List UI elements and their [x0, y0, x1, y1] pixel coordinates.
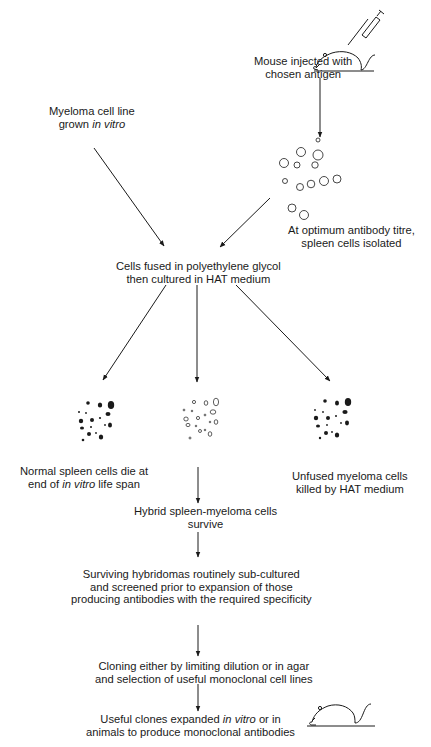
- arrow-myeloma-to-fusion: [94, 148, 164, 246]
- label-expansion: Useful clones expanded in vitro or in an…: [86, 713, 295, 738]
- arrow-spleen-to-fusion: [220, 198, 270, 247]
- arrow-fusion-to-unfused: [236, 285, 330, 381]
- label-spleen-isolated: At optimum antibody titre, spleen cells …: [288, 224, 415, 249]
- label-normal-spleen-die: Normal spleen cells die at end of in vit…: [20, 465, 148, 490]
- dead-spleen-cells-icon: [78, 401, 114, 441]
- label-mouse-injected: Mouse injected with chosen antigen: [254, 55, 352, 80]
- dead-myeloma-cells-icon: [314, 398, 351, 439]
- mouse-icon: [307, 704, 375, 726]
- arrow-fusion-to-normal: [103, 285, 166, 380]
- label-unfused-myeloma: Unfused myeloma cells killed by HAT medi…: [292, 470, 408, 495]
- label-fusion: Cells fused in polyethylene glycol then …: [116, 260, 281, 285]
- label-hybrid-survive: Hybrid spleen-myeloma cells survive: [134, 505, 277, 530]
- hybrid-cells-icon: [183, 398, 218, 439]
- label-cloning: Cloning either by limiting dilution or i…: [95, 660, 313, 685]
- spleen-cells-cluster-icon: [280, 138, 342, 220]
- label-myeloma-cell-line: Myeloma cell line grown in vitro: [49, 105, 135, 130]
- label-screening: Surviving hybridomas routinely sub-cultu…: [71, 568, 312, 606]
